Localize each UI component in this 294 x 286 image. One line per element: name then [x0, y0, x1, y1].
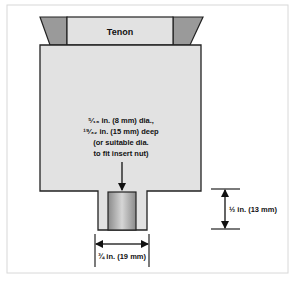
tenon-assembly: Tenon	[40, 17, 203, 45]
height-dimension-label: ½ in. (13 mm)	[229, 205, 277, 214]
tenon-label: Tenon	[107, 27, 133, 37]
hole-note-line1: ⁵⁄₁₆ in. (8 mm) dia.,	[88, 116, 154, 125]
hole-note-line3: (or suitable dia.	[93, 138, 148, 147]
insert-nut	[108, 192, 136, 230]
tenon-insert-diagram: Tenon ⁵⁄₁₆ in. (8 mm) dia., ¹⁹⁄₃₂ in. (1…	[0, 0, 294, 286]
hole-note-line2: ¹⁹⁄₃₂ in. (15 mm) deep	[83, 127, 159, 136]
width-dimension-label: ¾ in. (19 mm)	[98, 252, 146, 261]
hole-note-line4: to fit insert nut)	[94, 149, 149, 158]
